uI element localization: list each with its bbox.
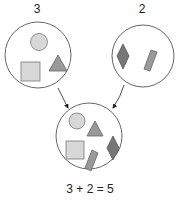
left-set	[5, 22, 71, 88]
equation: 3 + 2 = 5	[50, 182, 130, 196]
circle-shape	[31, 34, 48, 51]
result-set	[56, 103, 122, 171]
right-arrow	[113, 85, 124, 108]
set-addition-diagram	[0, 0, 181, 200]
circle-shape	[69, 113, 85, 129]
left-arrow	[58, 88, 68, 108]
right-set	[112, 25, 174, 87]
square-shape	[66, 141, 84, 159]
square-shape	[21, 62, 40, 81]
